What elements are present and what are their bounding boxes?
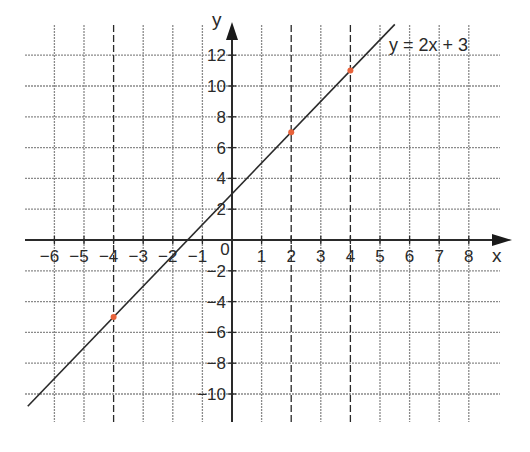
y-axis-arrow-icon [226, 22, 238, 40]
x-tick-label: 1 [257, 247, 266, 266]
y-tick-label: −4 [207, 293, 226, 312]
x-tick-label: 6 [405, 247, 414, 266]
x-tick-label: −2 [158, 247, 177, 266]
labels: x y 0 y = 2x + 3 [212, 9, 502, 266]
x-tick-label: 8 [464, 247, 473, 266]
x-tick-label: 3 [316, 247, 325, 266]
x-tick-label: −4 [99, 247, 118, 266]
grid [25, 25, 500, 422]
x-tick-label: −6 [40, 247, 59, 266]
highlighted-point [111, 314, 117, 320]
highlighted-point [347, 68, 353, 74]
origin-label: 0 [220, 240, 229, 259]
x-tick-label: −1 [188, 247, 207, 266]
x-tick-label: 2 [286, 247, 295, 266]
x-tick-label: −5 [69, 247, 88, 266]
x-axis-label: x [492, 245, 502, 266]
y-tick-label: 8 [217, 108, 226, 127]
y-tick-label: −6 [207, 323, 226, 342]
x-tick-label: 7 [434, 247, 443, 266]
x-tick-label: 4 [346, 247, 355, 266]
equation-label: y = 2x + 3 [389, 35, 468, 55]
coordinate-plane: −6−5−4−3−2−11234567812108642−2−4−6−8−10 … [0, 0, 530, 452]
y-tick-label: −2 [207, 262, 226, 281]
y-tick-label: −8 [207, 354, 226, 373]
y-tick-label: −10 [197, 385, 226, 404]
x-tick-label: −3 [129, 247, 148, 266]
y-tick-label: 10 [207, 77, 226, 96]
ticks: −6−5−4−3−2−11234567812108642−2−4−6−8−10 [40, 46, 474, 404]
y-tick-label: 2 [217, 200, 226, 219]
y-tick-label: 6 [217, 139, 226, 158]
y-tick-label: 12 [207, 46, 226, 65]
y-axis-label: y [212, 9, 222, 30]
x-tick-label: 5 [375, 247, 384, 266]
y-tick-label: 4 [217, 169, 226, 188]
highlighted-point [288, 129, 294, 135]
